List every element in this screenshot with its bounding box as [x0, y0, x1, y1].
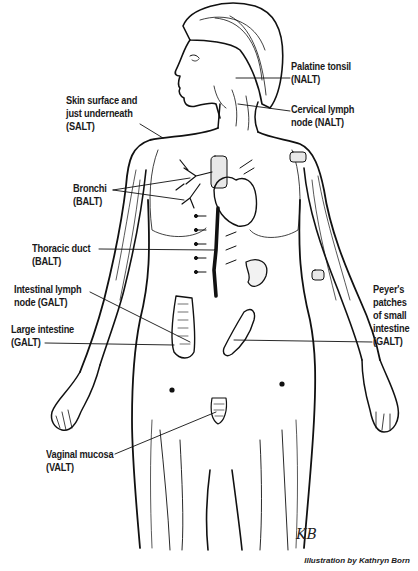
label-vaginal-mucosa: Vaginal mucosa (VALT): [46, 448, 113, 474]
label-thoracic-duct: Thoracic duct (BALT): [32, 242, 90, 268]
large-intestine: [172, 296, 195, 358]
wrist-node-right: [312, 270, 324, 280]
right-hand: [362, 360, 398, 432]
bronchi: [176, 160, 212, 208]
label-cervical-lymph-node: Cervical lymph node (NALT): [291, 103, 354, 129]
small-intestine: [223, 310, 254, 356]
label-bronchi: Bronchi (BALT): [73, 182, 107, 208]
thoracic-duct: [214, 208, 218, 296]
label-palatine-tonsil: Palatine tonsil (NALT): [291, 60, 351, 86]
elbow-node-right: [290, 152, 306, 162]
thymus: [211, 156, 227, 188]
label-peyers-patches: Peyer's patches of small intestine (GALT…: [373, 283, 409, 348]
artist-signature: KB: [296, 526, 317, 542]
illustration-credit: Illustration by Kathryn Born: [304, 556, 410, 565]
left-hand: [51, 365, 100, 430]
uterus: [211, 398, 226, 424]
label-skin-salt: Skin surface and just underneath (SALT): [66, 94, 137, 133]
label-intestinal-lymph-node: Intestinal lymph node (GALT): [14, 283, 82, 309]
inguinal-node-right: [279, 381, 284, 386]
inguinal-node-left: [169, 387, 174, 392]
leader-lines: [45, 78, 372, 454]
label-large-intestine: Large intestine (GALT): [11, 323, 74, 349]
spleen: [246, 260, 267, 287]
head: [175, 40, 220, 118]
